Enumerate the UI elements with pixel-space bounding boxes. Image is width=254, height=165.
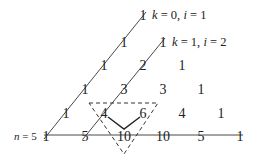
cell-r5-c0: 1 [43,129,50,144]
label-n5: n = 5 [14,130,37,142]
cell-r5-c4: 5 [198,129,205,144]
cell-r2-c1: 2 [140,58,147,73]
cell-r4-c2: 6 [140,106,147,121]
diagonal-k0 [44,12,146,139]
cell-r5-c2: 10 [117,129,131,144]
cell-r2-c2: 1 [179,58,186,73]
cell-r2-c0: 1 [101,58,108,73]
cell-r3-c0: 1 [82,82,89,97]
label-k0-i1: k = 0, i = 1 [152,8,206,22]
cell-r1-c1: 1 [160,35,167,50]
cell-r0-c0: 1 [140,8,147,23]
sum-connector [108,117,140,129]
pascal-triangle-diagram: k = 0, i = 1 k = 1, i = 2 n = 5 1 1 1 1 … [0,0,254,165]
cell-r4-c4: 1 [218,106,225,121]
cell-r3-c3: 1 [198,82,205,97]
cell-r3-c1: 3 [121,82,128,97]
cell-r1-c0: 1 [121,35,128,50]
cell-r5-c5: 1 [237,129,244,144]
cell-r5-c1: 5 [82,129,89,144]
cell-r4-c1: 4 [101,106,108,121]
cell-r4-c0: 1 [63,106,70,121]
label-k1-i2: k = 1, i = 2 [172,35,226,49]
cell-r3-c2: 3 [160,82,167,97]
cell-r5-c3: 10 [156,129,170,144]
cell-r4-c3: 4 [179,106,186,121]
